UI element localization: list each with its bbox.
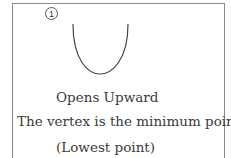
- lowest-point-text: (Lowest point): [56, 139, 155, 155]
- opens-upward-text: Opens Upward: [56, 89, 158, 105]
- vertex-minimum-text: The vertex is the minimum point.: [17, 113, 231, 129]
- upward-parabola-icon: [0, 0, 231, 158]
